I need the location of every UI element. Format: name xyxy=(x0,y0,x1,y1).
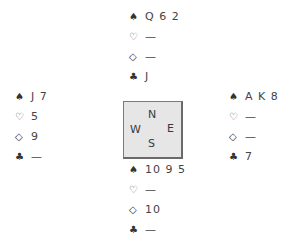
heart-icon: ♡ xyxy=(229,107,245,127)
west-clubs: — xyxy=(31,147,43,167)
east-spades-row: ♠ A K 8 xyxy=(229,87,279,107)
east-clubs: 7 xyxy=(245,147,253,167)
west-diamonds-row: ◇ 9 xyxy=(15,127,48,147)
club-icon: ♣ xyxy=(129,67,145,87)
north-clubs: J xyxy=(145,67,149,87)
compass-east-label: E xyxy=(167,122,174,135)
north-diamonds: — xyxy=(145,47,157,67)
north-spades: Q 6 2 xyxy=(145,7,180,27)
south-clubs: — xyxy=(145,220,157,240)
club-icon: ♣ xyxy=(229,147,245,167)
west-hand: ♠ J 7 ♡ 5 ◇ 9 ♣ — xyxy=(15,87,48,167)
south-hand: ♠ 10 9 5 ♡ — ◇ 10 ♣ — xyxy=(129,160,186,240)
east-hearts: — xyxy=(245,107,257,127)
north-hand: ♠ Q 6 2 ♡ — ◇ — ♣ J xyxy=(129,7,180,87)
east-spades: A K 8 xyxy=(245,87,279,107)
south-spades-row: ♠ 10 9 5 xyxy=(129,160,186,180)
club-icon: ♣ xyxy=(15,147,31,167)
diamond-icon: ◇ xyxy=(15,127,31,147)
east-hand: ♠ A K 8 ♡ — ◇ — ♣ 7 xyxy=(229,87,279,167)
west-spades: J 7 xyxy=(31,87,48,107)
east-clubs-row: ♣ 7 xyxy=(229,147,279,167)
south-hearts-row: ♡ — xyxy=(129,180,186,200)
south-diamonds: 10 xyxy=(145,200,161,220)
spade-icon: ♠ xyxy=(15,87,31,107)
compass-north-label: N xyxy=(148,108,156,121)
compass-box: N W E S xyxy=(123,101,183,159)
spade-icon: ♠ xyxy=(129,160,145,180)
heart-icon: ♡ xyxy=(129,180,145,200)
west-diamonds: 9 xyxy=(31,127,39,147)
north-hearts: — xyxy=(145,27,157,47)
east-diamonds-row: ◇ — xyxy=(229,127,279,147)
south-clubs-row: ♣ — xyxy=(129,220,186,240)
north-diamonds-row: ◇ — xyxy=(129,47,180,67)
west-spades-row: ♠ J 7 xyxy=(15,87,48,107)
north-spades-row: ♠ Q 6 2 xyxy=(129,7,180,27)
west-clubs-row: ♣ — xyxy=(15,147,48,167)
compass-west-label: W xyxy=(130,123,141,136)
heart-icon: ♡ xyxy=(15,107,31,127)
south-hearts: — xyxy=(145,180,157,200)
compass-south-label: S xyxy=(148,137,155,150)
diamond-icon: ◇ xyxy=(129,47,145,67)
south-spades: 10 9 5 xyxy=(145,160,186,180)
west-hearts: 5 xyxy=(31,107,39,127)
north-clubs-row: ♣ J xyxy=(129,67,180,87)
south-diamonds-row: ◇ 10 xyxy=(129,200,186,220)
spade-icon: ♠ xyxy=(229,87,245,107)
diamond-icon: ◇ xyxy=(229,127,245,147)
east-hearts-row: ♡ — xyxy=(229,107,279,127)
east-diamonds: — xyxy=(245,127,257,147)
diamond-icon: ◇ xyxy=(129,200,145,220)
west-hearts-row: ♡ 5 xyxy=(15,107,48,127)
heart-icon: ♡ xyxy=(129,27,145,47)
club-icon: ♣ xyxy=(129,220,145,240)
north-hearts-row: ♡ — xyxy=(129,27,180,47)
spade-icon: ♠ xyxy=(129,7,145,27)
